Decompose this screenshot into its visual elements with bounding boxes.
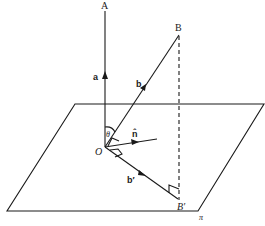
diagram-canvas: A B O B′ a b b′ n̂ θ π [0, 0, 265, 226]
label-vector-b: b [136, 79, 142, 89]
label-vector-n-hat: n̂ [132, 128, 138, 139]
label-point-b: B [175, 22, 182, 33]
label-angle-theta: θ [106, 130, 110, 139]
line-n-hat [105, 139, 157, 147]
label-plane-pi: π [199, 213, 204, 222]
arrowhead-n-hat [131, 139, 139, 145]
label-point-b-prime: B′ [177, 201, 186, 212]
right-angle-marker-b-prime [169, 185, 179, 193]
plane-pi [7, 104, 264, 211]
label-vector-b-prime: b′ [127, 175, 135, 185]
arrowhead-a [102, 71, 108, 79]
label-vector-a: a [93, 72, 99, 82]
right-angle-marker-o-lower [110, 149, 122, 157]
line-ob [105, 35, 179, 147]
label-point-o: O [95, 146, 102, 157]
arrowhead-b-prime [138, 170, 146, 176]
label-point-a: A [101, 0, 109, 11]
